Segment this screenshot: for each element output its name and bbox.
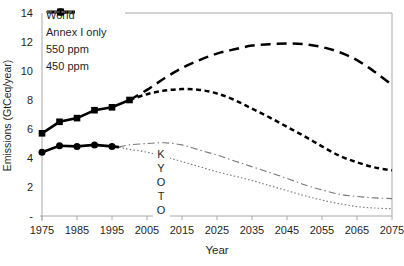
legend-label-450ppm: 450 ppm xyxy=(46,60,89,72)
x-axis-title: Year xyxy=(42,244,392,256)
y-tick-label: 6 xyxy=(27,123,33,135)
y-tick-label: 14 xyxy=(21,7,33,19)
x-tick-label: 2005 xyxy=(135,224,159,236)
x-tick-label: 2075 xyxy=(380,224,404,236)
x-tick-label: 2045 xyxy=(275,224,299,236)
kyoto-annotation-letter: T xyxy=(158,190,165,202)
series-world_observed-line xyxy=(42,100,130,133)
kyoto-annotation-letter: O xyxy=(157,176,166,188)
legend: World Annex I only 550 ppm 450 ppm xyxy=(46,6,107,74)
y-tick-label: 4 xyxy=(27,152,33,164)
series-annex1_observed-circle-marker xyxy=(109,143,116,150)
x-tick-label: 2025 xyxy=(205,224,229,236)
x-tick-label: 2035 xyxy=(240,224,264,236)
legend-label-annex1: Annex I only xyxy=(46,26,107,38)
legend-item-550ppm: 550 ppm xyxy=(46,40,107,57)
x-tick-label: 1975 xyxy=(30,224,54,236)
series-annex1_observed-circle-marker xyxy=(39,149,46,156)
y-tick-label: 2 xyxy=(27,181,33,193)
series-world_550-line xyxy=(130,43,393,100)
x-tick-label: 2055 xyxy=(310,224,334,236)
kyoto-annotation-letter: Y xyxy=(157,162,165,174)
x-tick-label: 2065 xyxy=(345,224,369,236)
dotted-line-icon xyxy=(46,6,76,18)
x-tick-label: 2015 xyxy=(170,224,194,236)
series-annex1_observed-circle-marker xyxy=(91,141,98,148)
y-tick-label: 12 xyxy=(21,36,33,48)
emissions-chart: 1975198519952005201520252035204520552065… xyxy=(0,0,404,266)
y-axis-title: Emissions (GtCeq/year) xyxy=(1,14,14,218)
legend-item-450ppm: 450 ppm xyxy=(46,57,107,74)
y-tick-label: - xyxy=(29,210,33,222)
series-annex1_observed-circle-marker xyxy=(74,143,81,150)
series-world_observed-square-marker xyxy=(74,115,81,122)
y-tick-label: 8 xyxy=(27,94,33,106)
x-tick-label: 1985 xyxy=(65,224,89,236)
series-world_observed-square-marker xyxy=(91,107,98,114)
series-annex1_observed-circle-marker xyxy=(56,142,63,149)
legend-label-550ppm: 550 ppm xyxy=(46,43,89,55)
series-world_observed-square-marker xyxy=(56,119,63,126)
kyoto-annotation-letter: K xyxy=(157,148,165,160)
series-world_observed-square-marker xyxy=(39,130,46,137)
x-tick-label: 1995 xyxy=(100,224,124,236)
legend-item-annex1: Annex I only xyxy=(46,23,107,40)
series-world_observed-square-marker xyxy=(109,104,116,111)
kyoto-annotation-letter: O xyxy=(157,204,166,216)
y-tick-label: 10 xyxy=(21,65,33,77)
series-annex1_observed-line xyxy=(42,145,119,152)
